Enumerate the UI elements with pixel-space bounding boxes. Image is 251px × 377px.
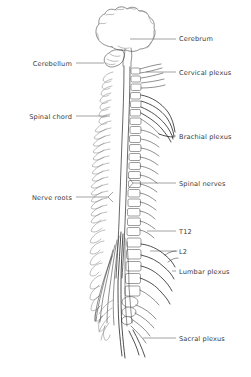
- label-cerebrum: Cerebrum: [179, 35, 213, 43]
- label-sacral-plexus: Sacral plexus: [179, 335, 225, 343]
- spinal-anatomy-diagram: Cerebrum Cervical plexus Brachial plexus…: [0, 0, 251, 377]
- label-lumbar-plexus: Lumbar plexus: [179, 268, 230, 276]
- label-spinal-chord: Spinal chord: [29, 113, 72, 121]
- spinous-processes: [90, 72, 113, 340]
- thoracic-spinal-nerves: [140, 130, 159, 238]
- label-nerve-roots: Nerve roots: [32, 194, 72, 202]
- cervical-plexus-nerves: [140, 64, 165, 88]
- cerebellum-outline: [104, 50, 124, 67]
- brachial-plexus-nerves: [141, 95, 175, 142]
- lumbar-plexus-nerves: [140, 244, 178, 305]
- leader-nerve-roots-fork: [108, 192, 113, 202]
- label-cerebellum: Cerebellum: [33, 60, 72, 68]
- label-brachial-plexus: Brachial plexus: [179, 133, 232, 141]
- label-t12: T12: [178, 228, 192, 236]
- label-spinal-nerves: Spinal nerves: [179, 180, 226, 188]
- vertebral-bodies: [122, 68, 142, 325]
- label-cervical-plexus: Cervical plexus: [179, 69, 232, 77]
- cerebrum-outline: [96, 7, 155, 52]
- label-l2: L2: [179, 248, 187, 256]
